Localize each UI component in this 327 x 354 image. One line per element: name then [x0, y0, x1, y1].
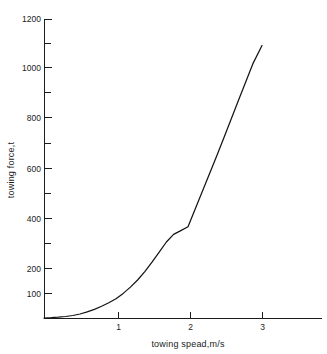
x-tick-label-1: 1	[116, 322, 121, 332]
x-tick-label-3: 3	[260, 322, 265, 332]
y-tick-label-600: 600	[27, 164, 41, 174]
y-tick-label-400: 400	[27, 214, 41, 224]
y-axis-title: towing force,t	[6, 142, 16, 199]
y-tick-label-100: 100	[27, 289, 41, 299]
chart-figure: 1200 1000 800 600 400 200 100 1 2 3 towi…	[0, 0, 327, 354]
y-tick-label-1000: 1000	[22, 63, 41, 73]
chart-background	[0, 0, 327, 354]
line-chart: 1200 1000 800 600 400 200 100 1 2 3 towi…	[0, 0, 327, 354]
y-tick-label-800: 800	[27, 113, 41, 123]
x-axis-title: towing spead,m/s	[151, 339, 225, 349]
y-tick-label-1200: 1200	[22, 14, 41, 24]
y-tick-label-200: 200	[27, 264, 41, 274]
x-tick-label-2: 2	[188, 322, 193, 332]
